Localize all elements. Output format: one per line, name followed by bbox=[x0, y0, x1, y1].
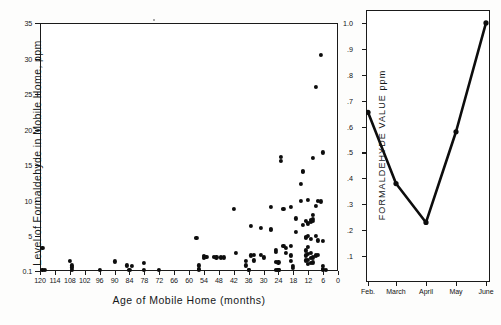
line-chart-x-tick bbox=[396, 282, 397, 286]
scatter-x-tick bbox=[40, 271, 41, 275]
scatter-x-tick-label: 84 bbox=[126, 276, 134, 285]
line-chart-y-tick bbox=[362, 101, 367, 102]
line-chart-x-tick-label: April bbox=[419, 288, 433, 295]
scatter-x-tick bbox=[55, 271, 56, 275]
line-chart-y-tick-label: .7 bbox=[347, 96, 353, 105]
line-chart-y-tick bbox=[362, 204, 367, 205]
scatter-x-tick-label: 96 bbox=[96, 276, 104, 285]
line-chart-y-tick bbox=[362, 75, 367, 76]
line-chart-x-tick bbox=[426, 282, 427, 286]
scatter-point bbox=[249, 223, 253, 227]
scatter-y-tick-label: 5 bbox=[0, 232, 32, 241]
scatter-x-tick bbox=[144, 271, 145, 275]
scatter-point bbox=[259, 226, 263, 230]
scatter-point bbox=[214, 255, 218, 259]
line-chart-y-tick-label: .3 bbox=[347, 200, 353, 209]
scatter-x-tick-label: 102 bbox=[79, 276, 90, 285]
scatter-point bbox=[289, 253, 293, 257]
line-chart-x-tick bbox=[368, 282, 369, 286]
scatter-y-tick-label: 0.1 bbox=[0, 267, 32, 276]
scatter-y-tick bbox=[35, 23, 40, 24]
scatter-x-tick-label: 114 bbox=[49, 276, 60, 285]
scatter-point bbox=[142, 261, 146, 265]
line-chart-x-tick bbox=[456, 282, 457, 286]
line-chart-y-tick bbox=[362, 152, 367, 153]
scatter-point bbox=[289, 259, 293, 263]
scatter-point bbox=[319, 53, 323, 57]
scatter-point bbox=[251, 258, 255, 262]
scatter-x-tick-label: 66 bbox=[170, 276, 178, 285]
line-chart-x-tick-label: May bbox=[449, 288, 462, 295]
scatter-x-tick bbox=[264, 271, 265, 275]
scatter-point bbox=[284, 245, 288, 249]
figure-canvas: 1201141081029690847872666054484236302418… bbox=[0, 0, 501, 325]
scatter-x-tick bbox=[70, 271, 71, 275]
scatter-point bbox=[279, 159, 283, 163]
scatter-point bbox=[319, 199, 323, 203]
scatter-x-tick-label: 36 bbox=[245, 276, 253, 285]
scatter-y-axis-title: Level of Formaldehyde in Mobile Home, pp… bbox=[31, 38, 43, 268]
scatter-point bbox=[251, 253, 255, 257]
scatter-x-tick-label: 90 bbox=[111, 276, 119, 285]
scatter-x-tick bbox=[129, 271, 130, 275]
scatter-point bbox=[321, 239, 325, 243]
line-chart-y-tick-label: .1 bbox=[347, 252, 353, 261]
line-chart-y-tick-label: 1.0 bbox=[343, 18, 353, 27]
scatter-point bbox=[314, 85, 318, 89]
scatter-x-tick bbox=[338, 271, 339, 275]
scatter-x-tick bbox=[323, 271, 324, 275]
line-chart-y-tick bbox=[362, 23, 367, 24]
line-chart-y-tick bbox=[362, 127, 367, 128]
scatter-y-tick-label: 25 bbox=[0, 90, 32, 99]
scatter-x-tick bbox=[159, 271, 160, 275]
scatter-x-tick-label: 0 bbox=[336, 276, 340, 285]
scatter-y-tick-label: 10 bbox=[0, 196, 32, 205]
line-chart-x-tick bbox=[486, 282, 487, 286]
scatter-x-tick-label: 120 bbox=[34, 276, 45, 285]
scatter-point bbox=[311, 219, 315, 223]
scatter-y-tick-label: 30 bbox=[0, 54, 32, 63]
scatter-x-tick bbox=[174, 271, 175, 275]
scan-speck bbox=[153, 19, 155, 21]
scatter-x-tick-label: 18 bbox=[289, 276, 297, 285]
line-chart-x-tick-label: June bbox=[478, 288, 493, 295]
scatter-point bbox=[289, 205, 293, 209]
scatter-point bbox=[194, 236, 198, 240]
scatter-point bbox=[294, 216, 298, 220]
scatter-point bbox=[316, 253, 320, 257]
scatter-point bbox=[311, 260, 315, 264]
scatter-x-tick-label: 108 bbox=[64, 276, 75, 285]
line-chart-y-tick bbox=[362, 178, 367, 179]
scatter-point bbox=[276, 260, 280, 264]
scatter-point bbox=[234, 251, 238, 255]
scatter-point bbox=[301, 223, 305, 227]
scatter-point bbox=[291, 266, 295, 270]
scatter-point bbox=[232, 207, 236, 211]
scatter-x-tick bbox=[219, 271, 220, 275]
line-chart-y-tick bbox=[362, 256, 367, 257]
scatter-point bbox=[321, 150, 325, 154]
scatter-point bbox=[43, 268, 47, 272]
scatter-x-tick-label: 54 bbox=[200, 276, 208, 285]
scatter-x-tick-label: 60 bbox=[185, 276, 193, 285]
line-chart-y-tick-label: .5 bbox=[347, 148, 353, 157]
scatter-y-tick-label: 20 bbox=[0, 125, 32, 134]
scatter-x-tick bbox=[189, 271, 190, 275]
scatter-plot-panel: 1201141081029690847872666054484236302418… bbox=[0, 0, 355, 325]
scatter-point bbox=[281, 207, 285, 211]
scatter-x-tick bbox=[100, 271, 101, 275]
scatter-x-tick bbox=[293, 271, 294, 275]
scatter-x-tick bbox=[308, 271, 309, 275]
scatter-point bbox=[299, 182, 303, 186]
scatter-x-tick bbox=[115, 271, 116, 275]
line-chart-y-tick bbox=[362, 49, 367, 50]
line-chart-y-tick-label: .2 bbox=[347, 226, 353, 235]
scatter-point bbox=[204, 255, 208, 259]
scatter-point bbox=[289, 244, 293, 248]
scatter-point bbox=[284, 251, 288, 255]
scatter-point bbox=[294, 230, 298, 234]
scatter-point bbox=[261, 255, 265, 259]
scatter-point bbox=[306, 198, 310, 202]
scatter-point bbox=[274, 250, 278, 254]
line-chart-y-tick-label: .4 bbox=[347, 174, 353, 183]
